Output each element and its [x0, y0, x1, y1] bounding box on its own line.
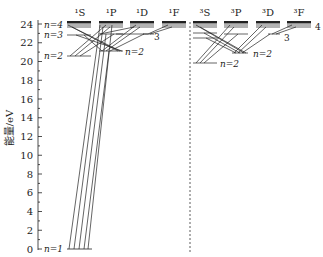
label-n3-left: n=3: [44, 30, 63, 40]
term-3S: ³S: [200, 7, 211, 18]
label-n2-triplet-p: n=2: [253, 49, 272, 59]
term-1S: ¹S: [75, 7, 86, 18]
term-3D: ³D: [262, 7, 274, 18]
energy-level-diagram: 0 2 4 6 8 10 12 14 16 18 20 22 24 能量/eV …: [0, 0, 323, 257]
svg-text:14: 14: [20, 112, 33, 123]
svg-text:20: 20: [20, 56, 33, 67]
y-tick-labels: 0 2 4 6 8 10 12 14 16 18 20 22 24: [20, 19, 33, 255]
label-n4-triplet-f: 4: [315, 22, 321, 32]
term-1P: ¹P: [106, 7, 117, 18]
svg-text:8: 8: [27, 169, 33, 180]
label-n2-left: n=2: [44, 51, 63, 61]
svg-text:22: 22: [20, 37, 33, 48]
svg-text:12: 12: [20, 131, 33, 142]
svg-text:4: 4: [27, 206, 33, 217]
svg-text:16: 16: [20, 94, 33, 105]
svg-text:6: 6: [27, 187, 33, 198]
svg-text:24: 24: [20, 19, 33, 30]
svg-text:2: 2: [27, 225, 33, 236]
label-n2-singlet-p: n=2: [125, 47, 144, 57]
label-n4-left: n=4: [44, 20, 63, 30]
label-n3-singlet-d: 3: [154, 32, 160, 42]
svg-text:0: 0: [27, 244, 33, 255]
term-3P: ³P: [231, 7, 242, 18]
svg-text:10: 10: [20, 150, 33, 161]
y-axis-label: 能量/eV: [3, 109, 15, 146]
term-1D: ¹D: [136, 7, 148, 18]
term-3F: ³F: [294, 7, 305, 18]
svg-text:18: 18: [20, 75, 33, 86]
label-n1: n=1: [44, 244, 63, 254]
label-n3-triplet-d: 3: [284, 33, 290, 43]
term-1F: ¹F: [169, 7, 180, 18]
y-axis: [38, 20, 42, 250]
label-n2-triplet-s: n=2: [220, 59, 239, 69]
